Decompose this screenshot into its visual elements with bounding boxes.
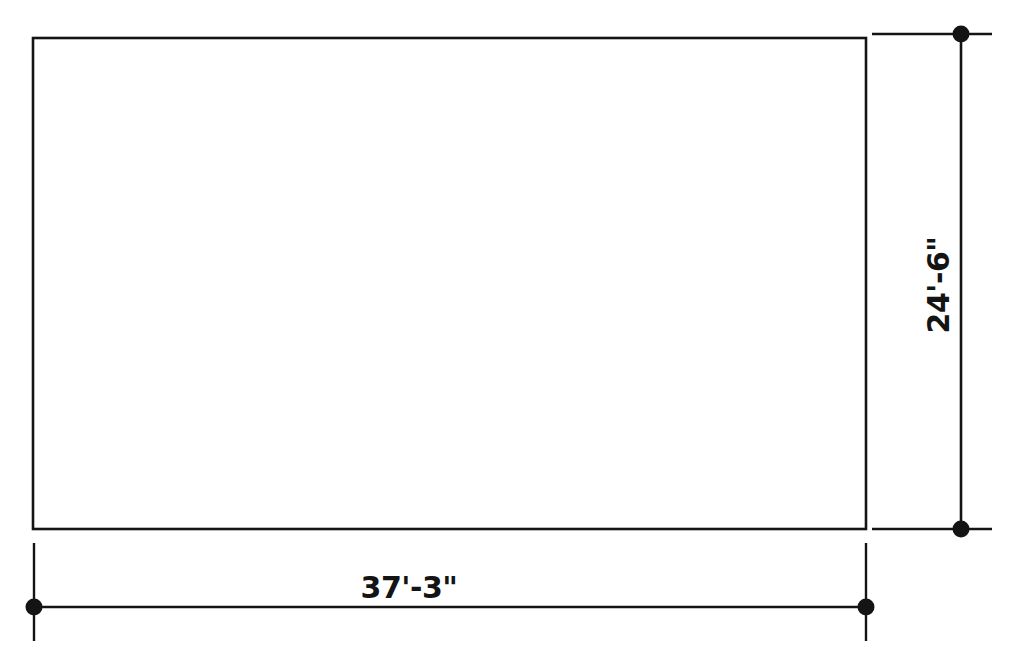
dimensioned-rectangle-drawing: 37'-3" 24'-6" <box>0 0 1021 656</box>
vertical-dimension-label: 24'-6" <box>921 237 956 334</box>
dimension-dot-horizontal-right <box>858 599 875 616</box>
dimension-dot-vertical-top <box>953 26 970 43</box>
technical-drawing-canvas: 37'-3" 24'-6" <box>0 0 1021 656</box>
dimension-dot-vertical-bottom <box>953 521 970 538</box>
horizontal-dimension-label: 37'-3" <box>361 570 458 605</box>
dimension-dot-horizontal-left <box>26 599 43 616</box>
drawing-background <box>0 0 1021 656</box>
